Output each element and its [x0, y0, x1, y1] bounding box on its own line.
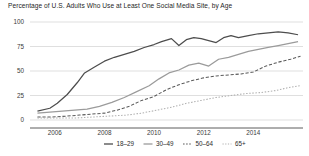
- data-series: [37, 32, 300, 118]
- legend-label-18–29: 18–29: [117, 140, 135, 147]
- series-line-65+: [37, 86, 300, 118]
- y-tick-label: 25: [17, 92, 25, 99]
- gridlines: [30, 22, 303, 120]
- series-line-18-29: [37, 32, 298, 111]
- x-axis-ticks: 20062008201020122014: [48, 129, 261, 136]
- y-tick-label: 75: [17, 43, 25, 50]
- legend-label-65+: 65+: [235, 140, 246, 147]
- chart-figure: Percentage of U.S. Adults Who Use at Lea…: [0, 0, 309, 156]
- chart-legend: 18–2930–4950–6465+: [104, 140, 246, 147]
- y-tick-label: 50: [17, 67, 25, 74]
- x-tick-label: 2012: [197, 129, 212, 136]
- y-axis-ticks: 0255075100: [13, 18, 24, 123]
- x-tick-label: 2014: [246, 129, 261, 136]
- x-tick-label: 2010: [147, 129, 162, 136]
- legend-label-30–49: 30–49: [156, 140, 174, 147]
- y-tick-label: 100: [13, 18, 24, 25]
- chart-plot-area: 0255075100 20062008201020122014 18–2930–…: [0, 0, 309, 156]
- series-line-30-49: [37, 42, 298, 114]
- x-tick-label: 2006: [48, 129, 63, 136]
- x-tick-label: 2008: [97, 129, 112, 136]
- series-line-50-64: [37, 56, 300, 117]
- y-tick-label: 0: [20, 116, 24, 123]
- legend-label-50–64: 50–64: [196, 140, 214, 147]
